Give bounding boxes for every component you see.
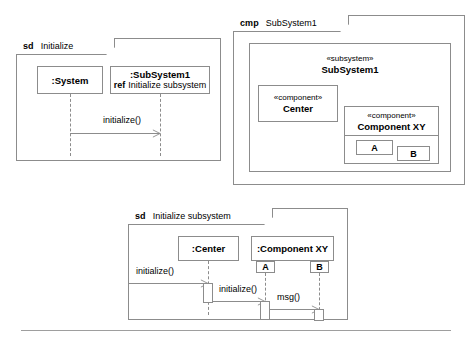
frame-kind-label-sub: sd bbox=[135, 211, 146, 221]
component-name-label-xy: Component XY bbox=[345, 121, 438, 132]
lifeline-name-system: :System bbox=[52, 75, 89, 86]
frame-kind-label: sd bbox=[23, 41, 34, 51]
frame-sd-initialize: sd Initialize :System :SubSystem1 refIni… bbox=[16, 38, 221, 161]
lifeline-head-subsystem1[interactable]: :SubSystem1 refInitialize subsystem bbox=[110, 66, 210, 94]
component-divider bbox=[345, 135, 438, 136]
subsystem-stereotype-label: «subsystem» bbox=[250, 54, 450, 64]
lifeline-name-center: :Center bbox=[192, 243, 225, 254]
frame-cmp-subsystem1: cmp SubSystem1 «subsystem» SubSystem1 «c… bbox=[233, 15, 465, 185]
message-label-initialize-gate: initialize() bbox=[136, 266, 174, 276]
frame-kind-label-cmp: cmp bbox=[240, 18, 259, 28]
lifeline-head-system[interactable]: :System bbox=[37, 66, 103, 94]
ref-text-label: Initialize subsystem bbox=[128, 80, 206, 90]
lifeline-ref-subsystem1: refInitialize subsystem bbox=[114, 80, 207, 91]
lifeline-subsystem1 bbox=[160, 94, 161, 156]
arrowhead-icon bbox=[152, 129, 161, 138]
frame-sd-initialize-subsystem: sd Initialize subsystem :Center :Compone… bbox=[128, 208, 348, 320]
component-box-component-xy[interactable]: «component» Component XY A B bbox=[344, 106, 439, 164]
frame-name-label-cmp: SubSystem1 bbox=[266, 18, 330, 28]
activation-bar-port-a bbox=[260, 301, 270, 320]
port-box-b[interactable]: B bbox=[310, 261, 329, 273]
component-name-label-center: Center bbox=[283, 103, 313, 114]
diagram-canvas: sd Initialize :System :SubSystem1 refIni… bbox=[0, 0, 474, 339]
lifeline-name-component-xy: :Component XY bbox=[257, 243, 328, 254]
frame-name-label-sub: Initialize subsystem bbox=[153, 211, 244, 221]
lifeline-name-subsystem1: :SubSystem1 bbox=[130, 69, 190, 80]
component-box-center[interactable]: «component» Center bbox=[258, 85, 338, 122]
message-arrow-initialize bbox=[70, 133, 160, 134]
port-label-b: B bbox=[316, 262, 323, 272]
frame-tab-sd-initialize: sd Initialize bbox=[16, 38, 115, 55]
message-arrow-initialize-a bbox=[213, 301, 265, 302]
page-footer-rule bbox=[21, 330, 451, 331]
message-arrow-msg bbox=[270, 309, 319, 310]
port-box-a[interactable]: A bbox=[256, 261, 275, 273]
part-box-b[interactable]: B bbox=[397, 146, 430, 161]
ref-keyword-label: ref bbox=[114, 80, 126, 90]
activation-bar-center bbox=[203, 283, 213, 303]
frame-tab-sd-initialize-subsystem: sd Initialize subsystem bbox=[128, 208, 273, 225]
subsystem-name-label: SubSystem1 bbox=[250, 64, 450, 75]
component-stereotype-label-xy: «component» bbox=[345, 111, 438, 121]
frame-name-label: Initialize bbox=[41, 41, 87, 51]
message-label-initialize-a: initialize() bbox=[219, 284, 257, 294]
component-stereotype-label-center: «component» bbox=[274, 93, 322, 103]
part-label-a: A bbox=[371, 143, 378, 153]
frame-tab-cmp-subsystem1: cmp SubSystem1 bbox=[233, 15, 349, 32]
message-label-initialize: initialize() bbox=[103, 115, 141, 125]
lifeline-system bbox=[70, 94, 71, 156]
part-box-a[interactable]: A bbox=[356, 140, 393, 155]
part-label-b: B bbox=[410, 149, 417, 159]
message-arrow-initialize-gate bbox=[128, 283, 208, 284]
message-label-msg: msg() bbox=[277, 292, 300, 302]
lifeline-head-component-xy[interactable]: :Component XY bbox=[251, 236, 334, 261]
activation-bar-port-b bbox=[314, 309, 324, 321]
lifeline-head-center[interactable]: :Center bbox=[178, 236, 239, 261]
port-label-a: A bbox=[262, 262, 269, 272]
